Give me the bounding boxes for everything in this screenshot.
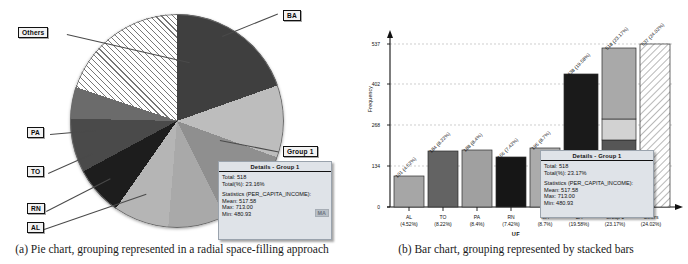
bar-pa	[462, 150, 492, 207]
pie-callout-al[interactable]: AL	[27, 222, 44, 233]
y-tick-0: 0	[362, 204, 380, 210]
tooltip-total-pct: Total(%): 23.16%	[222, 181, 328, 188]
tooltip-total: Total: 518	[544, 163, 650, 170]
tooltip-mean: Mean: 517.58	[222, 198, 328, 205]
y-axis-title: Frequency	[367, 69, 373, 129]
caption-panel-b: (b) Bar chart, grouping represented by s…	[344, 243, 688, 255]
details-tooltip-bar[interactable]: Details - Group 1 Total: 518 Total(%): 2…	[540, 150, 654, 218]
tooltip-min: Min: 480.93	[222, 211, 328, 218]
tooltip-total: Total: 518	[222, 174, 328, 181]
pie-callout-to[interactable]: TO	[27, 166, 44, 177]
y-tick-402: 402	[362, 81, 380, 87]
bar-group1-seg-light-upper	[602, 48, 636, 119]
tooltip-statistics-header: Statistics (PER_CAPITA_INCOME):	[222, 191, 328, 198]
bar-rn	[496, 157, 526, 207]
pie-callout-group1[interactable]: Group 1	[283, 146, 318, 157]
pie-callout-others[interactable]: Others	[18, 27, 48, 38]
tooltip-max: Max: 713.00	[222, 204, 328, 211]
tooltip-statistics-header: Statistics (PER_CAPITA_INCOME):	[544, 180, 650, 187]
panel-bar-chart: Frequency 537 402 268 134 0 101 (4.52%) …	[344, 0, 688, 264]
tooltip-badge-ma: MA	[315, 209, 329, 217]
caption-panel-a: (a) Pie chart, grouping represented in a…	[0, 243, 344, 255]
bar-to	[428, 151, 458, 207]
tooltip-min: Min: 480.93	[544, 200, 650, 207]
bar-al	[394, 176, 424, 207]
y-tick-134: 134	[362, 163, 380, 169]
figure-two-panel: BA Others PA TO RN AL Group 1 Details - …	[0, 0, 688, 264]
details-tooltip-pie[interactable]: Details - Group 1 Total: 518 Total(%): 2…	[218, 161, 332, 240]
tooltip-body: Total: 518 Total(%): 23.17% Statistics (…	[541, 161, 653, 207]
tooltip-total-pct: Total(%): 23.17%	[544, 170, 650, 177]
bar-group1-seg-light-lower	[602, 119, 636, 140]
pie-callout-pa[interactable]: PA	[27, 127, 44, 138]
panel-pie-chart: BA Others PA TO RN AL Group 1 Details - …	[0, 0, 344, 264]
tooltip-max: Max: 713.00	[544, 193, 650, 200]
bar-chart: Frequency 537 402 268 134 0 101 (4.52%) …	[344, 0, 688, 240]
tooltip-mean: Mean: 517.58	[544, 187, 650, 194]
tooltip-title: Details - Group 1	[219, 162, 331, 172]
y-tick-537: 537	[362, 41, 380, 47]
tooltip-body: Total: 518 Total(%): 23.16% Statistics (…	[219, 172, 331, 218]
y-tick-268: 268	[362, 122, 380, 128]
pie-callout-rn[interactable]: RN	[27, 203, 45, 214]
x-axis-title: UF	[344, 231, 688, 237]
pie-callout-ba[interactable]: BA	[283, 10, 301, 21]
tooltip-title: Details - Group 1	[541, 151, 653, 161]
